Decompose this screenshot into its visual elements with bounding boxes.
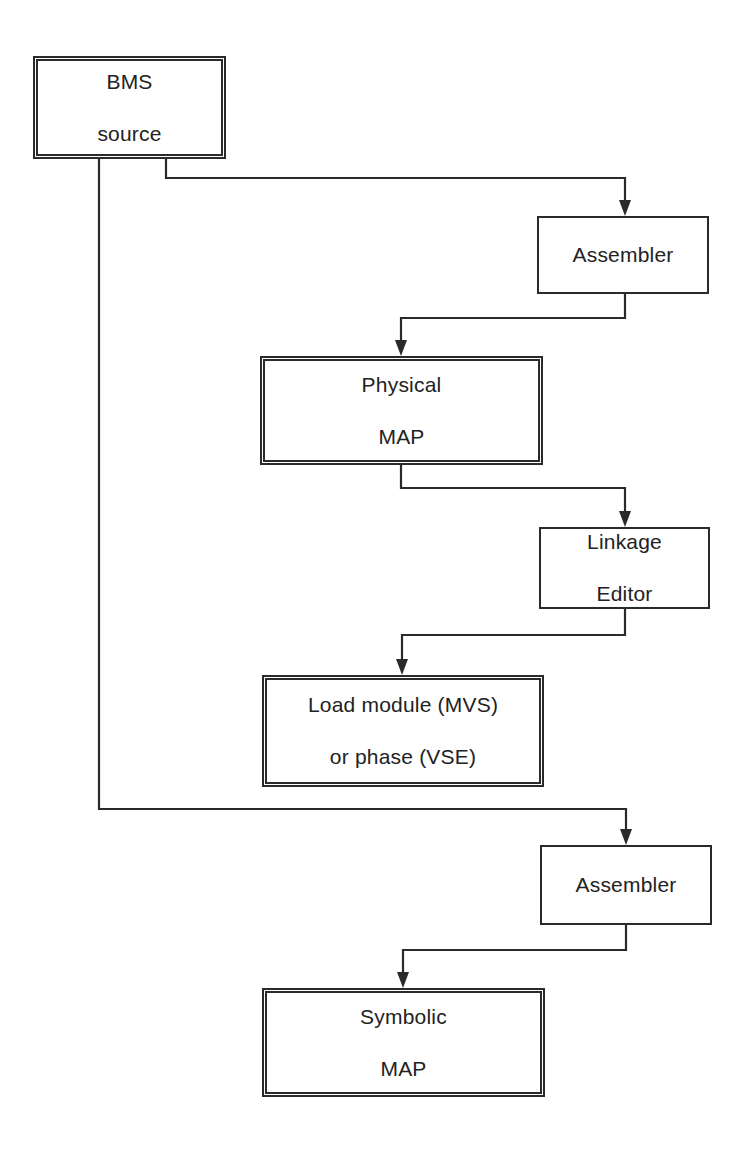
node-label: Linkage Editor xyxy=(587,503,662,633)
node-physical-map: Physical MAP xyxy=(260,356,543,465)
edge-assembler-1-to-physical-map xyxy=(401,293,625,340)
label-line: MAP xyxy=(362,424,442,450)
label-line: Symbolic xyxy=(360,1004,447,1030)
arrowhead-icon xyxy=(619,200,631,216)
label-line: Linkage xyxy=(587,529,662,555)
node-assembler-1: Assembler xyxy=(537,216,709,294)
label-line: MAP xyxy=(360,1056,447,1082)
node-load-module: Load module (MVS) or phase (VSE) xyxy=(262,675,544,787)
node-label: Symbolic MAP xyxy=(360,978,447,1108)
label-line: or phase (VSE) xyxy=(308,744,498,770)
node-label: Assembler xyxy=(573,216,674,294)
label-line: BMS xyxy=(97,69,161,95)
node-label: Load module (MVS) or phase (VSE) xyxy=(308,666,498,796)
node-linkage-editor: Linkage Editor xyxy=(539,527,710,609)
label-line: source xyxy=(97,121,161,147)
label-line: Physical xyxy=(362,372,442,398)
node-label: Physical MAP xyxy=(362,346,442,476)
node-bms-source: BMS source xyxy=(33,56,226,159)
node-symbolic-map: Symbolic MAP xyxy=(262,988,545,1097)
label-line: Editor xyxy=(587,581,662,607)
node-label: BMS source xyxy=(97,43,161,173)
label-line: Load module (MVS) xyxy=(308,692,498,718)
node-assembler-2: Assembler xyxy=(540,845,712,925)
arrowhead-icon xyxy=(620,829,632,845)
node-label: Assembler xyxy=(576,846,677,924)
edge-assembler-2-to-symbolic-map xyxy=(403,924,626,972)
edge-bms-to-assembler-1 xyxy=(166,158,625,200)
label-line: Assembler xyxy=(576,872,677,898)
label-line: Assembler xyxy=(573,242,674,268)
